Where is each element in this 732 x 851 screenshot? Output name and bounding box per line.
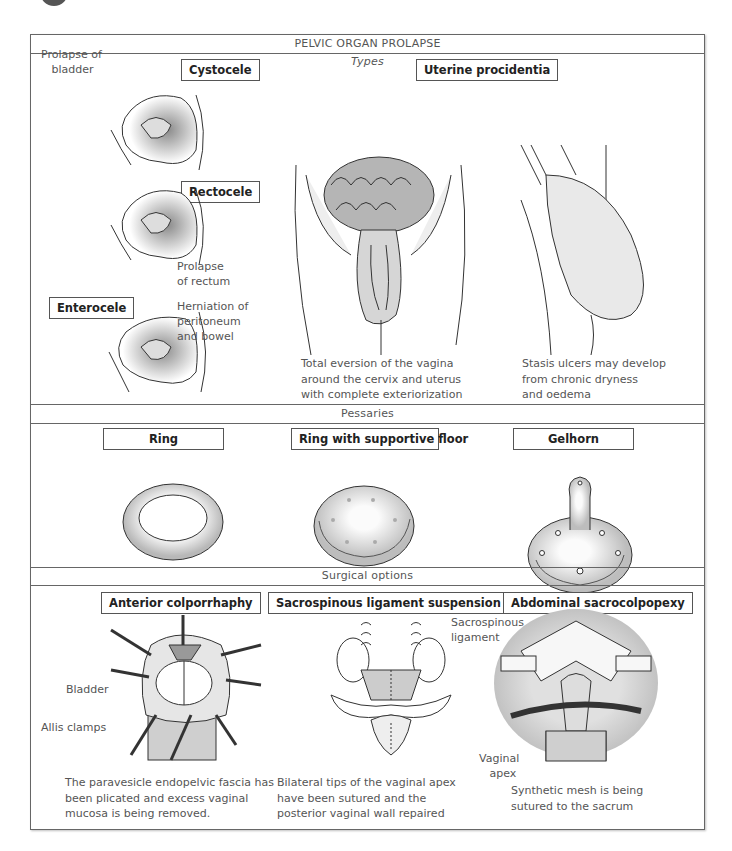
surgical-divider-top <box>31 567 704 568</box>
sacrospinous-caption: Bilateral tips of the vaginal apex have … <box>277 775 456 822</box>
sacrospinous-suspension-label: Sacrospinous ligament suspension <box>268 592 509 614</box>
stasis-ulcer-illustration <box>521 145 661 355</box>
bladder-annotation: Bladder <box>66 682 109 697</box>
rectocele-illustration <box>101 185 211 270</box>
abdominal-sacrocolpopexy-illustration <box>491 611 661 761</box>
surgical-header: Surgical options <box>31 569 704 582</box>
types-header: Types <box>31 55 704 68</box>
pessaries-header: Pessaries <box>31 407 704 420</box>
chapter-marker-circle <box>40 0 68 6</box>
uterine-procidentia-label: Uterine procidentia <box>416 59 558 81</box>
vaginal-apex-annotation: Vaginal apex <box>479 751 519 781</box>
anterior-colporrhaphy-label: Anterior colporrhaphy <box>101 592 261 614</box>
pessaries-divider-top <box>31 404 704 405</box>
sacrocolpopexy-caption: Synthetic mesh is being sutured to the s… <box>511 783 643 814</box>
title-divider <box>31 53 704 54</box>
stasis-caption: Stasis ulcers may develop from chronic d… <box>522 356 666 403</box>
ring-with-floor-pessary-icon <box>313 485 415 567</box>
ring-pessary-icon <box>123 480 223 560</box>
rectocele-annotation: Prolapse of rectum <box>177 259 230 289</box>
surgical-divider-bottom <box>31 585 704 586</box>
anterior-colporrhaphy-illustration <box>111 615 261 760</box>
anterior-colporrhaphy-caption: The paravesicle endopelvic fascia has be… <box>65 775 274 822</box>
ring-with-floor-label: Ring with supportive floor <box>291 428 439 450</box>
sacrospinous-suspension-illustration <box>331 615 451 755</box>
diagram-frame: PELVIC ORGAN PROLAPSE Types Cystocele Pr… <box>30 34 705 830</box>
allis-clamps-annotation: Allis clamps <box>41 720 106 735</box>
procidentia-caption: Total eversion of the vagina around the … <box>301 356 462 403</box>
uterine-procidentia-illustration <box>291 135 471 355</box>
gelhorn-label: Gelhorn <box>513 428 634 450</box>
pessaries-divider-bottom <box>31 423 704 424</box>
ring-label: Ring <box>103 428 224 450</box>
cystocele-label: Cystocele <box>181 59 260 81</box>
enterocele-annotation: Herniation of peritoneum and bowel <box>177 299 248 344</box>
cystocele-illustration <box>101 90 211 175</box>
diagram-title: PELVIC ORGAN PROLAPSE <box>31 37 704 50</box>
